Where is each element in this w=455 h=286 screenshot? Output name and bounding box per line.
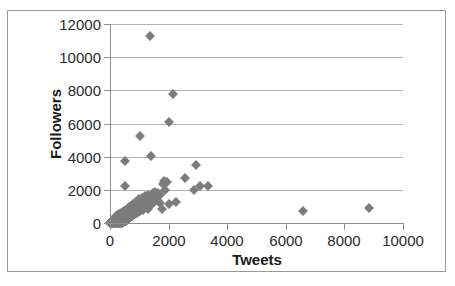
- y-tick-label: 12000: [59, 17, 110, 32]
- y-tick-label: 10000: [59, 50, 110, 65]
- x-tick-mark-10000: [403, 224, 404, 230]
- y-axis-title-container: Followers: [22, 24, 42, 224]
- y-tick-label: 0: [93, 216, 110, 231]
- y-tick-label: 8000: [68, 83, 110, 98]
- x-tick-label-2000: 2000: [152, 233, 185, 248]
- y-tick-label: 4000: [68, 150, 110, 165]
- chart-figure: Followers Tweets 02000400060008000100001…: [7, 10, 446, 272]
- x-tick-mark-0: [110, 224, 111, 230]
- data-point: [180, 173, 190, 183]
- data-point: [191, 160, 201, 170]
- data-point: [164, 117, 174, 127]
- gridline-y-12000: [110, 24, 403, 25]
- x-tick-mark-6000: [286, 224, 287, 230]
- y-tick-label: 2000: [68, 183, 110, 198]
- x-tick-label-6000: 6000: [269, 233, 302, 248]
- gridline-y-10000: [110, 57, 403, 58]
- data-point: [364, 203, 374, 213]
- data-point: [146, 151, 156, 161]
- data-point: [135, 131, 145, 141]
- y-axis-line: [110, 24, 111, 224]
- x-axis-line: [110, 223, 404, 224]
- x-tick-mark-4000: [227, 224, 228, 230]
- gridline-y-8000: [110, 90, 403, 91]
- x-tick-mark-2000: [169, 224, 170, 230]
- x-axis-title: Tweets: [110, 251, 404, 268]
- y-axis-title: Followers: [47, 89, 64, 159]
- data-point: [298, 206, 308, 216]
- plot-area: [110, 24, 403, 223]
- x-tick-label-10000: 10000: [382, 233, 424, 248]
- x-tick-label-0: 0: [106, 233, 114, 248]
- x-tick-label-8000: 8000: [327, 233, 360, 248]
- scan-artifact: [0, 276, 455, 286]
- data-point: [145, 31, 155, 41]
- x-tick-mark-8000: [344, 224, 345, 230]
- gridline-y-6000: [110, 124, 403, 125]
- y-tick-label: 6000: [68, 117, 110, 132]
- x-tick-label-4000: 4000: [210, 233, 243, 248]
